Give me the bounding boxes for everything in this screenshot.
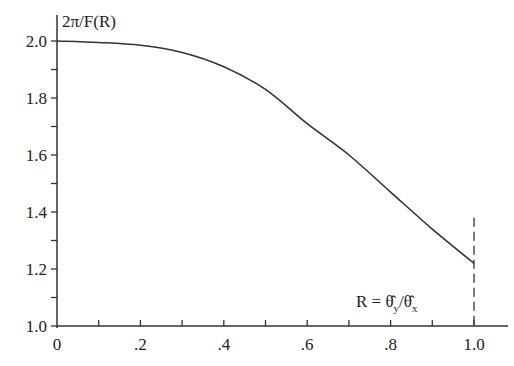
chart: 0.2.4.6.81.0 1.01.21.41.61.82.0 2π/F(R) … — [0, 0, 514, 366]
x-tick-labels: 0.2.4.6.81.0 — [53, 335, 485, 354]
axis-ticks — [51, 41, 474, 326]
x-tick-label: .2 — [134, 335, 147, 354]
x-tick-label: .6 — [301, 335, 314, 354]
y-tick-label: 1.2 — [26, 260, 47, 279]
y-tick-label: 1.8 — [26, 89, 47, 108]
y-tick-label: 1.6 — [26, 146, 47, 165]
x-tick-label: .4 — [217, 335, 230, 354]
x-axis-title: R = θ̂y/θ̂x — [356, 292, 418, 314]
y-axis-title: 2π/F(R) — [62, 12, 116, 31]
data-curve — [57, 41, 474, 263]
x-tick-label: .8 — [384, 335, 397, 354]
y-tick-labels: 1.01.21.41.61.82.0 — [26, 32, 48, 336]
y-tick-label: 1.4 — [26, 203, 48, 222]
x-tick-label: 0 — [53, 335, 62, 354]
x-tick-label: 1.0 — [463, 335, 484, 354]
axes — [57, 15, 508, 328]
y-tick-label: 1.0 — [26, 317, 47, 336]
y-tick-label: 2.0 — [26, 32, 47, 51]
